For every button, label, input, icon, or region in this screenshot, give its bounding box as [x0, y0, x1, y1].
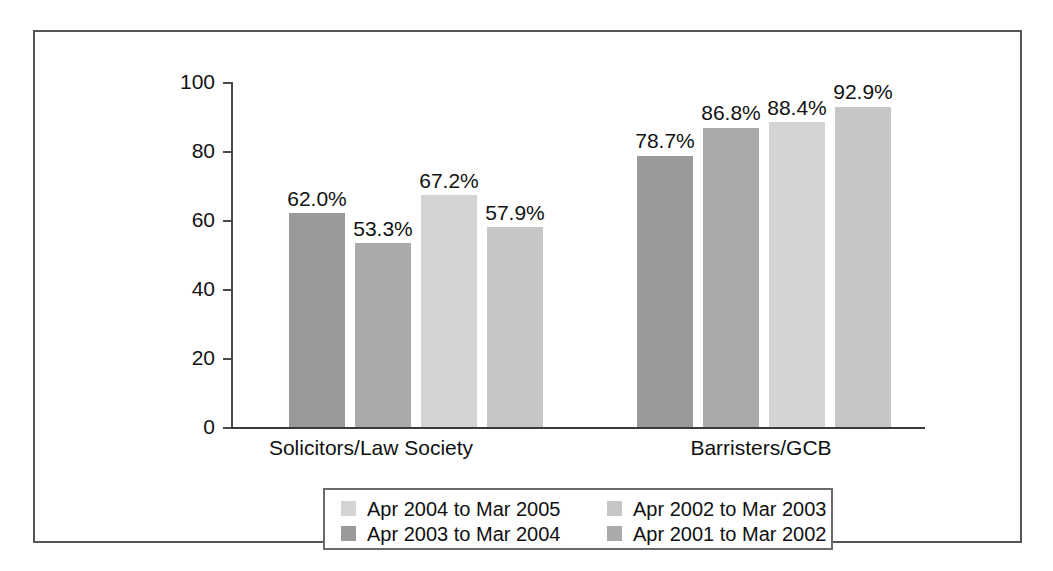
bar-barristers-apr2002-mar2003[interactable] [835, 107, 891, 428]
chart-legend: Apr 2004 to Mar 2005 Apr 2003 to Mar 200… [323, 488, 833, 550]
legend-label-apr2001-mar2002: Apr 2001 to Mar 2002 [633, 524, 826, 544]
bar-label-solicitors-apr2002-mar2003: 57.9% [469, 202, 561, 223]
bar-solicitors-apr2003-mar2004[interactable] [289, 213, 345, 427]
y-tick-label-40: 40 [155, 278, 215, 299]
legend-label-apr2004-mar2005: Apr 2004 to Mar 2005 [367, 499, 560, 519]
bar-solicitors-apr2002-mar2003[interactable] [487, 227, 543, 427]
bar-barristers-apr2001-mar2002[interactable] [703, 128, 759, 428]
legend-label-apr2003-mar2004: Apr 2003 to Mar 2004 [367, 524, 560, 544]
bar-barristers-apr2004-mar2005[interactable] [769, 122, 825, 427]
y-tick-mark-0 [223, 427, 232, 429]
bar-label-solicitors-apr2003-mar2004: 62.0% [271, 188, 363, 209]
bar-barristers-apr2003-mar2004[interactable] [637, 156, 693, 428]
legend-swatch-icon-apr2004-mar2005 [341, 501, 356, 516]
bar-label-solicitors-apr2001-mar2002: 53.3% [337, 218, 429, 239]
plot-area: 62.0% 53.3% 67.2% 57.9% 78.7% 86.8% 88.4… [231, 82, 921, 427]
legend-item-apr2002-mar2003[interactable]: Apr 2002 to Mar 2003 [607, 496, 826, 521]
legend-item-apr2001-mar2002[interactable]: Apr 2001 to Mar 2002 [607, 521, 826, 546]
category-label-barristers: Barristers/GCB [621, 436, 901, 460]
legend-item-apr2004-mar2005[interactable]: Apr 2004 to Mar 2005 [341, 496, 560, 521]
y-tick-label-20: 20 [155, 347, 215, 368]
bar-label-barristers-apr2002-mar2003: 92.9% [817, 81, 909, 102]
legend-swatch-icon-apr2003-mar2004 [341, 526, 356, 541]
legend-label-apr2002-mar2003: Apr 2002 to Mar 2003 [633, 499, 826, 519]
category-label-solicitors: Solicitors/Law Society [231, 436, 511, 460]
legend-item-apr2003-mar2004[interactable]: Apr 2003 to Mar 2004 [341, 521, 560, 546]
bar-solicitors-apr2001-mar2002[interactable] [355, 243, 411, 427]
legend-swatch-icon-apr2002-mar2003 [607, 501, 622, 516]
bar-solicitors-apr2004-mar2005[interactable] [421, 195, 477, 427]
y-tick-label-80: 80 [155, 140, 215, 161]
chart-figure-frame: 100 80 60 40 20 0 62.0% 53.3% 67.2% 57.9… [33, 30, 1022, 543]
bar-label-solicitors-apr2004-mar2005: 67.2% [403, 170, 495, 191]
y-tick-label-100: 100 [155, 71, 215, 92]
bar-label-barristers-apr2003-mar2004: 78.7% [619, 130, 711, 151]
legend-swatch-icon-apr2001-mar2002 [607, 526, 622, 541]
y-tick-label-0: 0 [155, 416, 215, 437]
bar-group-barristers: 78.7% 86.8% 88.4% 92.9% [621, 82, 901, 427]
legend-column-left: Apr 2004 to Mar 2005 Apr 2003 to Mar 200… [341, 496, 560, 546]
bar-group-solicitors: 62.0% 53.3% 67.2% 57.9% [231, 82, 511, 427]
y-tick-label-60: 60 [155, 209, 215, 230]
y-axis-tick-labels: 100 80 60 40 20 0 [149, 32, 215, 571]
legend-column-right: Apr 2002 to Mar 2003 Apr 2001 to Mar 200… [607, 496, 826, 546]
x-axis-line [231, 427, 925, 429]
